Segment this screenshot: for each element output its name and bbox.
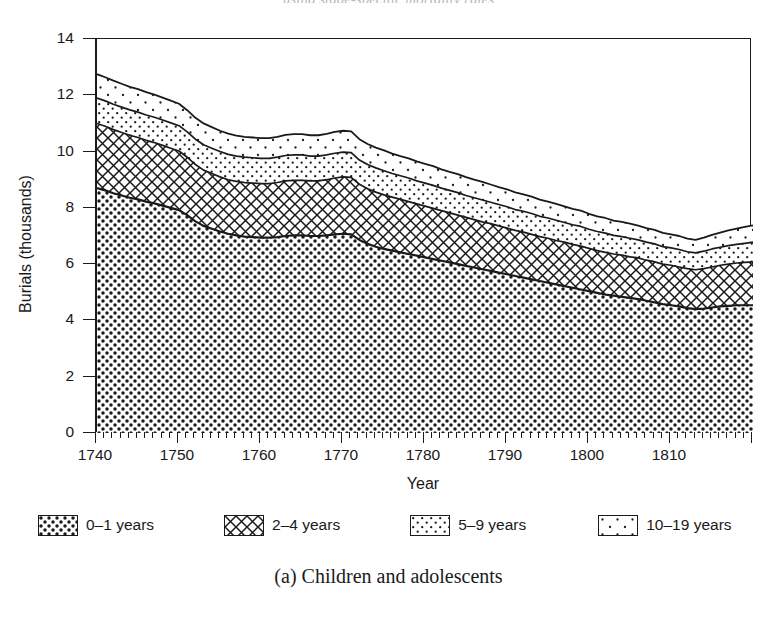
x-tick-mark-minor — [456, 432, 457, 438]
x-tick-mark-major — [669, 432, 670, 443]
x-tick-mark-minor — [357, 432, 358, 438]
x-tick-mark-minor — [349, 432, 350, 438]
x-tick-mark-minor — [415, 432, 416, 438]
x-tick-mark-major — [259, 432, 260, 443]
y-tick-mark — [83, 319, 95, 320]
legend-swatch-dense-checker — [38, 515, 78, 536]
figure-caption: (a) Children and adolescents — [0, 565, 777, 588]
x-tick-mark-minor — [218, 432, 219, 438]
x-tick-mark-minor — [480, 432, 481, 438]
x-tick-mark-minor — [431, 432, 432, 438]
x-tick-mark-minor — [169, 432, 170, 438]
x-tick-mark-minor — [521, 432, 522, 438]
y-tick-label: 14 — [22, 29, 74, 47]
x-tick-mark-minor — [464, 432, 465, 438]
y-axis-title: Burials (thousands) — [17, 79, 35, 409]
x-tick-mark-minor — [128, 432, 129, 438]
x-tick-mark-minor — [546, 432, 547, 438]
plot-area — [95, 38, 751, 432]
legend-item: 10–19 years — [598, 515, 731, 536]
x-tick-mark-minor — [497, 432, 498, 438]
x-tick-mark-minor — [185, 432, 186, 438]
x-tick-mark-minor — [144, 432, 145, 438]
x-tick-mark-minor — [251, 432, 252, 438]
legend-swatch-cross-hatch — [224, 515, 264, 536]
legend-label: 0–1 years — [86, 516, 154, 534]
x-tick-mark-minor — [374, 432, 375, 438]
y-tick-mark — [83, 38, 95, 39]
x-tick-mark-minor — [571, 432, 572, 438]
x-tick-mark-minor — [234, 432, 235, 438]
x-tick-mark-minor — [530, 432, 531, 438]
x-tick-label: 1750 — [142, 446, 212, 464]
x-tick-label: 1760 — [224, 446, 294, 464]
area-bands — [97, 74, 753, 433]
x-tick-mark-minor — [292, 432, 293, 438]
y-tick-mark — [83, 376, 95, 377]
x-tick-mark-minor — [316, 432, 317, 438]
legend-item: 5–9 years — [410, 515, 526, 536]
x-tick-mark-minor — [193, 432, 194, 438]
x-tick-mark-minor — [152, 432, 153, 438]
x-tick-mark-minor — [612, 432, 613, 438]
x-tick-mark-minor — [743, 432, 744, 438]
x-tick-mark-minor — [161, 432, 162, 438]
x-tick-mark-minor — [448, 432, 449, 438]
x-tick-mark-minor — [472, 432, 473, 438]
x-tick-mark-minor — [710, 432, 711, 438]
x-tick-mark-major — [177, 432, 178, 443]
x-tick-mark-major — [423, 432, 424, 443]
x-tick-mark-minor — [120, 432, 121, 438]
x-tick-mark-minor — [735, 432, 736, 438]
x-tick-mark-minor — [653, 432, 654, 438]
x-tick-mark-minor — [226, 432, 227, 438]
x-tick-mark-major — [341, 432, 342, 443]
x-tick-mark-minor — [325, 432, 326, 438]
x-tick-mark-minor — [620, 432, 621, 438]
x-tick-mark-minor — [636, 432, 637, 438]
x-tick-mark-major — [505, 432, 506, 443]
x-axis-title: Year — [95, 475, 751, 493]
legend-swatch-sparse-dots — [598, 515, 638, 536]
legend-item: 2–4 years — [224, 515, 340, 536]
x-tick-mark-minor — [685, 432, 686, 438]
y-tick-mark — [83, 94, 95, 95]
x-tick-mark-minor — [489, 432, 490, 438]
x-tick-mark-minor — [243, 432, 244, 438]
x-tick-mark-minor — [382, 432, 383, 438]
x-tick-mark-minor — [210, 432, 211, 438]
x-tick-mark-major — [95, 432, 96, 443]
x-tick-mark-minor — [603, 432, 604, 438]
x-tick-mark-minor — [595, 432, 596, 438]
x-tick-mark-minor — [562, 432, 563, 438]
x-tick-mark-major — [751, 432, 752, 443]
x-tick-mark-minor — [661, 432, 662, 438]
x-tick-mark-minor — [390, 432, 391, 438]
x-tick-label: 1800 — [552, 446, 622, 464]
legend-label: 2–4 years — [272, 516, 340, 534]
x-tick-mark-minor — [718, 432, 719, 438]
x-tick-label: 1770 — [306, 446, 376, 464]
x-tick-mark-minor — [628, 432, 629, 438]
page-running-head-ghost: using stage-specific mortality rates — [0, 0, 777, 3]
x-tick-mark-minor — [333, 432, 334, 438]
x-tick-mark-minor — [407, 432, 408, 438]
x-tick-label: 1810 — [634, 446, 704, 464]
legend-item: 0–1 years — [38, 515, 154, 536]
x-tick-label: 1790 — [470, 446, 540, 464]
x-tick-label: 1780 — [388, 446, 458, 464]
y-tick-mark — [83, 151, 95, 152]
x-tick-mark-minor — [284, 432, 285, 438]
figure-root: using stage-specific mortality rates 141… — [0, 0, 777, 619]
chart-legend: 0–1 years2–4 years5–9 years10–19 years — [38, 508, 748, 542]
x-tick-mark-minor — [275, 432, 276, 438]
legend-swatch-dense-dots — [410, 515, 450, 536]
x-tick-mark-minor — [644, 432, 645, 438]
x-tick-mark-minor — [300, 432, 301, 438]
x-tick-mark-minor — [554, 432, 555, 438]
x-tick-mark-minor — [267, 432, 268, 438]
x-tick-mark-minor — [513, 432, 514, 438]
legend-label: 5–9 years — [458, 516, 526, 534]
x-tick-label: 1740 — [60, 446, 130, 464]
x-tick-mark-minor — [103, 432, 104, 438]
